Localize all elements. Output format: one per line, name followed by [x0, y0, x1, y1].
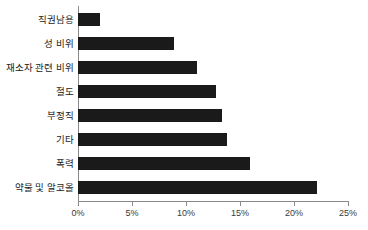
plot-area: 직권남용성 비위재소자 관련 비위절도부정직기타폭력약물 및 알코올 — [78, 8, 348, 200]
bar — [78, 61, 197, 74]
x-axis-tick — [78, 201, 79, 206]
bar-row: 직권남용 — [78, 8, 348, 32]
x-axis-tick-label: 20% — [274, 208, 314, 218]
bar-row: 부정직 — [78, 104, 348, 128]
x-axis-tick-label: 0% — [58, 208, 98, 218]
bar — [78, 181, 317, 194]
category-label: 직권남용 — [38, 8, 74, 32]
x-axis-tick-label: 10% — [166, 208, 206, 218]
bar-row: 재소자 관련 비위 — [78, 56, 348, 80]
category-label: 절도 — [56, 80, 74, 104]
x-axis-line — [78, 201, 349, 202]
category-label: 약물 및 알코올 — [15, 176, 74, 200]
category-label: 부정직 — [47, 104, 74, 128]
bar — [78, 85, 216, 98]
bar — [78, 157, 250, 170]
bar-row: 기타 — [78, 128, 348, 152]
x-axis-tick-label: 25% — [328, 208, 368, 218]
x-axis-tick-label: 5% — [112, 208, 152, 218]
x-axis-tick — [294, 201, 295, 206]
x-axis-tick — [348, 201, 349, 206]
bar — [78, 37, 174, 50]
category-label: 성 비위 — [44, 32, 74, 56]
category-label: 폭력 — [56, 152, 74, 176]
bar-chart: 직권남용성 비위재소자 관련 비위절도부정직기타폭력약물 및 알코올 0%5%1… — [0, 0, 368, 230]
bar-row: 약물 및 알코올 — [78, 176, 348, 200]
bar — [78, 109, 222, 122]
bar — [78, 13, 100, 26]
category-label: 기타 — [56, 128, 74, 152]
x-axis-tick — [132, 201, 133, 206]
bar-row: 폭력 — [78, 152, 348, 176]
x-axis-tick — [186, 201, 187, 206]
bar — [78, 133, 227, 146]
x-axis-tick-label: 15% — [220, 208, 260, 218]
category-label: 재소자 관련 비위 — [6, 56, 74, 80]
bar-row: 성 비위 — [78, 32, 348, 56]
x-axis-tick — [240, 201, 241, 206]
bar-row: 절도 — [78, 80, 348, 104]
